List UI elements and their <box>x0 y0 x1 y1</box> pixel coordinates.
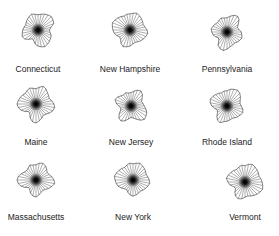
glyph-center <box>220 99 234 113</box>
star-glyph: Vermont <box>226 164 262 222</box>
star-plot-chart: ConnecticutNew HampshirePennsylvaniaMain… <box>0 0 279 236</box>
state-label: New Jersey <box>109 137 154 147</box>
star-glyph: Connecticut <box>16 14 62 74</box>
star-glyph: New Hampshire <box>100 13 161 74</box>
state-label: Connecticut <box>16 64 62 74</box>
state-label: Rhode Island <box>202 137 252 147</box>
star-glyph: Maine <box>17 86 55 147</box>
glyph-center <box>31 23 45 37</box>
glyph-center <box>29 173 43 187</box>
state-label: New York <box>115 212 152 222</box>
state-label: Massachusetts <box>8 212 65 222</box>
glyph-center <box>126 173 140 187</box>
star-glyph: New Jersey <box>109 90 154 147</box>
state-label: New Hampshire <box>100 64 161 74</box>
star-glyph: Pennsylvania <box>202 15 253 74</box>
glyph-center <box>124 99 138 113</box>
star-glyphs: ConnecticutNew HampshirePennsylvaniaMain… <box>8 13 263 222</box>
star-glyph: Rhode Island <box>202 89 252 147</box>
glyph-center <box>238 175 252 189</box>
glyph-center <box>123 23 137 37</box>
state-label: Pennsylvania <box>202 64 253 74</box>
state-label: Maine <box>24 137 47 147</box>
star-glyph: New York <box>114 163 151 222</box>
glyph-center <box>220 25 234 39</box>
glyph-center <box>29 97 43 111</box>
state-label: Vermont <box>229 212 261 222</box>
star-glyph: Massachusetts <box>8 163 65 222</box>
